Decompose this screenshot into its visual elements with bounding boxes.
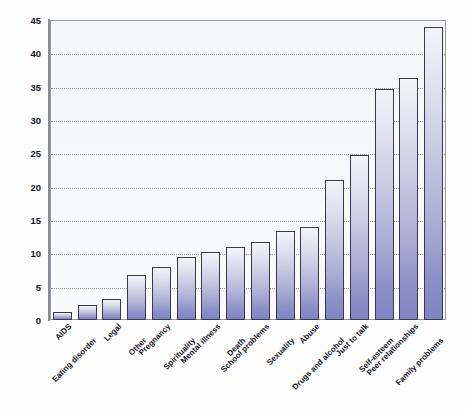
x-tick-label: AIDS	[54, 322, 74, 342]
y-tick-label: 30	[30, 115, 41, 126]
y-tick-label: 45	[30, 15, 41, 26]
chart-page: Percentage of calls mentioning the conce…	[0, 0, 465, 410]
y-tick-label: 5	[36, 281, 41, 292]
bar[interactable]	[325, 180, 344, 320]
bar[interactable]	[78, 305, 97, 320]
bar[interactable]	[251, 242, 270, 320]
bar[interactable]	[201, 252, 220, 320]
bar[interactable]	[53, 312, 72, 320]
y-tick-label: 25	[30, 148, 41, 159]
bar[interactable]	[226, 247, 245, 320]
x-axis-tick-labels: AIDSEating disorderLegalOtherPregnancySp…	[50, 322, 446, 410]
bar[interactable]	[127, 275, 146, 320]
x-tick-label: Legal	[102, 322, 123, 343]
bar[interactable]	[375, 89, 394, 320]
y-tick-label: 40	[30, 48, 41, 59]
bar[interactable]	[399, 78, 418, 320]
y-tick-label: 20	[30, 181, 41, 192]
bar[interactable]	[350, 155, 369, 320]
y-tick-label: 10	[30, 248, 41, 259]
bar[interactable]	[276, 231, 295, 320]
y-tick-label: 35	[30, 81, 41, 92]
bar[interactable]	[102, 299, 121, 320]
bar[interactable]	[177, 257, 196, 320]
bar[interactable]	[300, 227, 319, 320]
y-tick-label: 15	[30, 215, 41, 226]
bars-layer	[50, 20, 446, 320]
y-axis-tick-labels: 051015202530354045	[0, 0, 48, 410]
bar[interactable]	[424, 27, 443, 320]
bar[interactable]	[152, 267, 171, 320]
y-tick-label: 0	[36, 315, 41, 326]
x-tick-label: Sexuality	[265, 336, 296, 367]
x-tick-label: Abuse	[298, 322, 322, 346]
x-tick-label: Eating disorder	[51, 336, 99, 384]
x-tick-label: Drugs and alcohol	[290, 336, 346, 392]
